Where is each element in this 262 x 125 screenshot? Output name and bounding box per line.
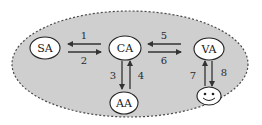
edge-label-4: 4 [138, 70, 144, 81]
edge-label-2: 2 [81, 55, 87, 66]
node-label-ca: CA [117, 42, 134, 55]
edge-label-1: 1 [81, 30, 87, 41]
node-label-aa: AA [115, 97, 133, 110]
edge-label-5: 5 [161, 30, 167, 41]
node-sa: SA [30, 37, 60, 59]
node-label-va: VA [200, 43, 217, 56]
diagram-canvas: 1 2 5 6 3 4 7 8 SA CA VA [0, 0, 262, 125]
edge-label-7: 7 [190, 70, 196, 81]
node-aa: AA [110, 92, 138, 114]
smiley-face-icon [197, 87, 221, 105]
edge-label-3: 3 [110, 70, 116, 81]
node-label-sa: SA [37, 42, 54, 55]
edge-label-6: 6 [161, 55, 167, 66]
node-ca: CA [109, 36, 141, 60]
node-va: VA [194, 38, 224, 60]
edge-label-8: 8 [221, 67, 227, 78]
